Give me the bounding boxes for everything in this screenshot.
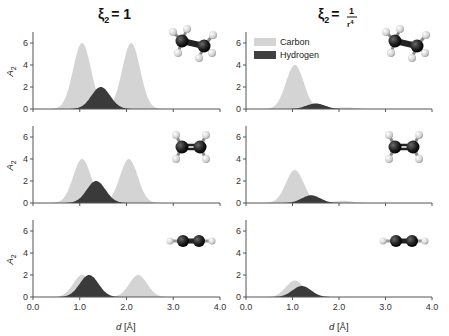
y-tick-label: 2	[236, 82, 241, 92]
x-tick-label: 3.0	[379, 302, 392, 312]
x-tick-label: 4.0	[426, 302, 439, 312]
y-tick-label: 0	[236, 292, 241, 302]
carbon-area	[246, 65, 432, 109]
y-tick-label: 2	[236, 270, 241, 280]
x-tick-label: 0.0	[240, 302, 253, 312]
y-axis-title: A2	[4, 160, 17, 171]
svg-text:d [Å]: d [Å]	[116, 321, 136, 332]
y-tick-label: 0	[23, 198, 28, 208]
panel-ethyne-xi-inv-r4: 02460.01.02.03.04.0	[236, 220, 438, 312]
y-tick-label: 6	[23, 38, 28, 48]
ethene-molecule-icon	[385, 131, 423, 163]
panel-ethene-xi-inv-r4: 0246	[236, 126, 432, 208]
legend-swatch-hydrogen	[254, 51, 276, 59]
carbon-area	[33, 159, 220, 203]
legend-label-carbon: Carbon	[280, 37, 310, 47]
y-tick-label: 4	[23, 154, 28, 164]
carbon-area	[33, 43, 220, 109]
y-tick-label: 2	[236, 176, 241, 186]
y-tick-label: 2	[23, 176, 28, 186]
y-tick-label: 0	[236, 104, 241, 114]
y-tick-label: 0	[23, 292, 28, 302]
y-tick-label: 2	[23, 82, 28, 92]
svg-text:1: 1	[349, 6, 354, 16]
hydrogen-area	[246, 286, 432, 297]
panel-ethene-xi-1: 0246A2	[4, 126, 220, 208]
svg-text:r4: r4	[347, 19, 354, 29]
x-tick-label: 3.0	[167, 302, 180, 312]
ethyne-molecule-icon	[167, 235, 216, 247]
figure: ξ2= 1 ξ2= 1 r4 0246A202460246A2024602460…	[0, 0, 449, 336]
y-tick-label: 4	[236, 154, 241, 164]
x-tick-label: 4.0	[214, 302, 227, 312]
y-tick-label: 0	[23, 104, 28, 114]
ethene-molecule-icon	[172, 131, 210, 163]
carbon-area	[246, 281, 432, 298]
legend: Carbon Hydrogen	[254, 37, 319, 60]
ethyne-molecule-icon	[380, 235, 429, 247]
svg-text:ξ2= 1: ξ2= 1	[98, 6, 131, 25]
y-tick-label: 6	[236, 38, 241, 48]
y-tick-label: 6	[236, 226, 241, 236]
y-tick-label: 6	[236, 132, 241, 142]
y-axis-title: A2	[4, 66, 17, 77]
column-title-left: ξ2= 1	[98, 6, 131, 25]
svg-text:ξ2=: ξ2=	[318, 6, 339, 25]
y-tick-label: 4	[23, 60, 28, 70]
y-tick-label: 6	[23, 226, 28, 236]
svg-text:d [Å]: d [Å]	[329, 321, 349, 332]
y-tick-label: 4	[236, 60, 241, 70]
carbon-area	[33, 275, 220, 297]
y-tick-label: 2	[23, 270, 28, 280]
x-tick-label: 1.0	[286, 302, 299, 312]
x-axis-title-left: d [Å]	[116, 321, 136, 332]
column-title-right: ξ2= 1 r4	[318, 6, 357, 29]
legend-label-hydrogen: Hydrogen	[280, 50, 319, 60]
ethane-molecule-icon	[169, 25, 217, 62]
y-tick-label: 6	[23, 132, 28, 142]
y-axis-title: A2	[4, 254, 17, 265]
ethane-molecule-icon	[382, 25, 430, 62]
legend-swatch-carbon	[254, 38, 276, 46]
carbon-area	[246, 170, 432, 203]
panel-ethyne-xi-1: 02460.01.02.03.04.0A2	[4, 220, 226, 312]
x-tick-label: 2.0	[120, 302, 133, 312]
y-tick-label: 0	[236, 198, 241, 208]
y-tick-label: 4	[23, 248, 28, 258]
x-tick-label: 0.0	[27, 302, 40, 312]
x-tick-label: 2.0	[333, 302, 346, 312]
x-axis-title-right: d [Å]	[329, 321, 349, 332]
x-tick-label: 1.0	[73, 302, 86, 312]
y-tick-label: 4	[236, 248, 241, 258]
